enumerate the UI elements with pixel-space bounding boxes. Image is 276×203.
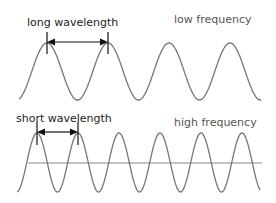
high-frequency-label: high frequency xyxy=(174,116,257,129)
low-frequency-label: low frequency xyxy=(174,13,252,26)
low-frequency-wave xyxy=(19,43,261,100)
wavelength-frequency-diagram: long wavelength low frequency short wave… xyxy=(0,0,276,203)
short-wavelength-label: short wavelength xyxy=(16,112,112,125)
diagram-canvas: long wavelength low frequency short wave… xyxy=(0,0,276,203)
long-wavelength-label: long wavelength xyxy=(27,16,118,29)
long-wavelength-marker xyxy=(47,32,108,54)
